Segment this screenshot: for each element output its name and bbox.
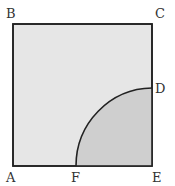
label-c: C <box>155 6 165 21</box>
label-e: E <box>152 170 162 185</box>
label-d: D <box>155 81 165 96</box>
label-f: F <box>71 170 80 185</box>
label-b: B <box>6 6 16 21</box>
label-a: A <box>5 170 16 185</box>
geometry-diagram: B C D A F E <box>0 0 175 186</box>
